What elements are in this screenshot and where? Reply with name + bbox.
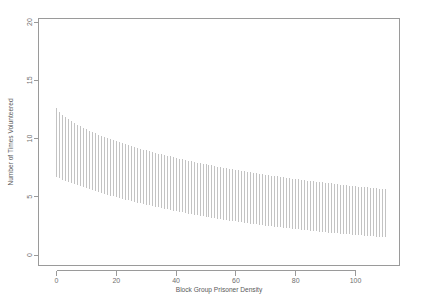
x-tick-label: 60 bbox=[232, 277, 240, 284]
x-axis-title: Block Group Prisoner Density bbox=[176, 286, 263, 294]
y-tick-label: 20 bbox=[26, 18, 33, 26]
chart-background bbox=[0, 0, 421, 304]
x-tick-label: 0 bbox=[55, 277, 59, 284]
x-tick-label: 80 bbox=[292, 277, 300, 284]
y-tick-label: 5 bbox=[26, 195, 33, 199]
x-tick-label: 20 bbox=[112, 277, 120, 284]
y-axis-title: Number of Times Volunteered bbox=[7, 98, 14, 186]
y-tick-label: 10 bbox=[26, 135, 33, 143]
y-tick-label: 0 bbox=[26, 253, 33, 257]
plot-root: 05101520 020406080100 Block Group Prison… bbox=[0, 0, 421, 304]
x-tick-label: 100 bbox=[350, 277, 362, 284]
chart-canvas: 05101520 020406080100 Block Group Prison… bbox=[0, 0, 421, 304]
y-tick-label: 15 bbox=[26, 76, 33, 84]
x-tick-label: 40 bbox=[172, 277, 180, 284]
